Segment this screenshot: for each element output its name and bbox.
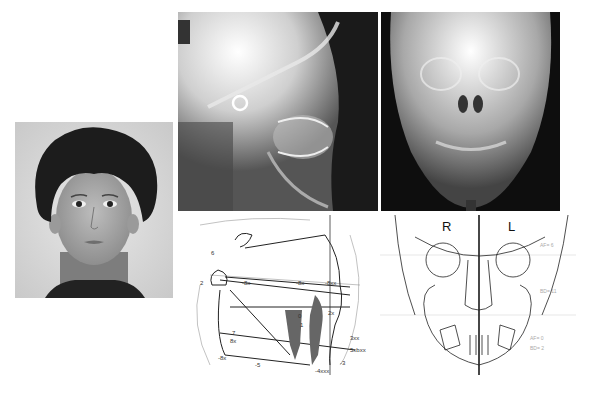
svg-text:2: 2 <box>200 280 204 286</box>
pa-cephalogram <box>381 12 560 211</box>
svg-text:1: 1 <box>300 322 304 328</box>
svg-text:BD= 11: BD= 11 <box>540 288 557 294</box>
svg-text:-8x: -8x <box>242 280 250 286</box>
lateral-cephalogram <box>178 12 378 211</box>
svg-text:-8x: -8x <box>296 280 304 286</box>
svg-text:-8x: -8x <box>218 355 226 361</box>
lateral-tracing: 6 2 -8x -8x -8xx 2x 0 1 7 8x 3xx 5xbxx -… <box>190 215 378 375</box>
svg-text:3xx: 3xx <box>350 335 359 341</box>
svg-text:-3: -3 <box>340 360 346 366</box>
svg-text:-5: -5 <box>255 362 261 368</box>
svg-text:L: L <box>508 219 515 234</box>
svg-text:-4xxx: -4xxx <box>315 368 329 374</box>
svg-text:AF= 0: AF= 0 <box>530 335 544 341</box>
facial-photo <box>15 122 173 298</box>
svg-text:8x: 8x <box>230 338 236 344</box>
svg-text:AF= 6: AF= 6 <box>540 242 554 248</box>
svg-text:5xbxx: 5xbxx <box>350 347 366 353</box>
frontal-tracing: R L AF= 6 BD= 11 AF= 0 BD= 2 <box>380 215 576 375</box>
svg-text:2x: 2x <box>328 310 334 316</box>
svg-text:6: 6 <box>211 250 215 256</box>
svg-text:BD= 2: BD= 2 <box>530 345 544 351</box>
svg-text:R: R <box>442 219 451 234</box>
svg-text:-8xx: -8xx <box>325 280 336 286</box>
